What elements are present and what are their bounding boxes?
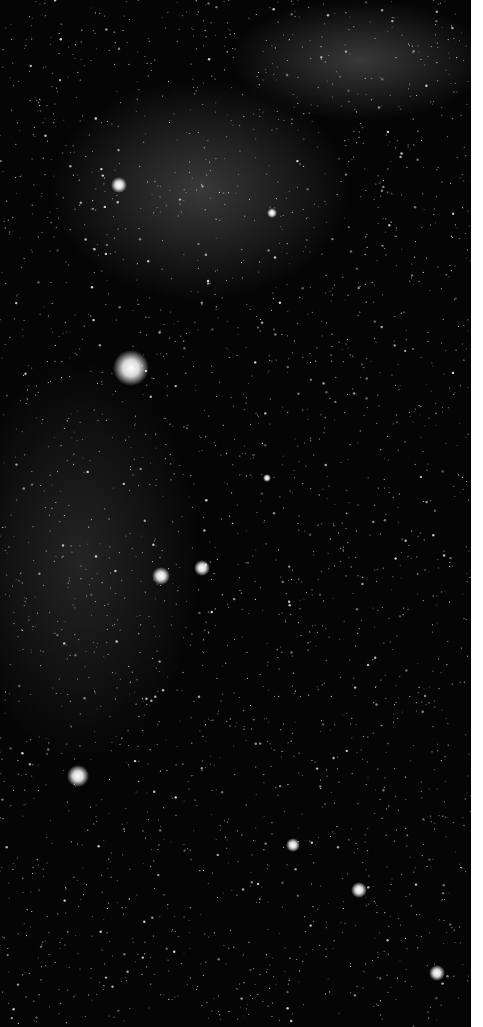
bright-star [152, 567, 170, 585]
bright-star [429, 965, 445, 981]
star-field-photo [0, 0, 471, 1027]
bright-star [267, 208, 277, 218]
bright-star [351, 882, 367, 898]
bright-star [111, 177, 127, 193]
star-field-canvas [0, 0, 471, 1027]
bright-star [286, 838, 300, 852]
page-margin [471, 0, 483, 1027]
bright-star [194, 560, 210, 576]
bright-star [67, 765, 89, 787]
bright-star [263, 474, 271, 482]
bright-star [113, 350, 149, 386]
